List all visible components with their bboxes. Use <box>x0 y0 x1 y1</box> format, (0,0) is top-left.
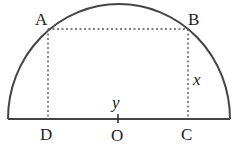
diagram-canvas: A B D O C x y <box>0 0 233 156</box>
label-b: B <box>188 10 199 29</box>
label-x: x <box>192 70 201 89</box>
label-a: A <box>35 10 48 29</box>
label-o: O <box>111 126 123 145</box>
label-d: D <box>40 125 52 144</box>
label-c: C <box>181 125 192 144</box>
label-y: y <box>110 93 120 112</box>
